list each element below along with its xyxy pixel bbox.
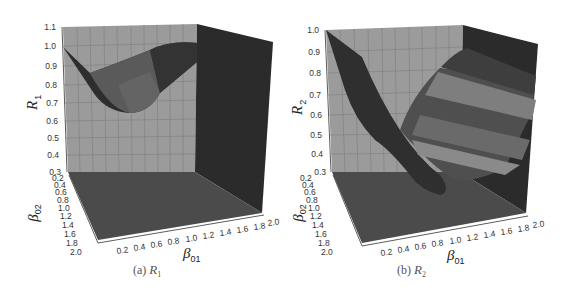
svg-text:2.0: 2.0 — [267, 216, 280, 228]
surface-plot-r2: 1.0 0.9 0.8 0.7 0.6 0.5 0.4 0.3 R2 0.2 0… — [284, 0, 568, 293]
svg-text:0.9: 0.9 — [45, 61, 57, 71]
svg-text:0.6: 0.6 — [46, 116, 58, 126]
svg-text:0.4: 0.4 — [311, 149, 323, 159]
svg-text:0.7: 0.7 — [309, 90, 321, 100]
svg-text:0.4: 0.4 — [397, 243, 410, 255]
svg-text:0.8: 0.8 — [45, 80, 57, 90]
caption-b: (b) R2 — [397, 262, 426, 279]
z-axis-label: R2 — [289, 100, 308, 116]
svg-text:1.0: 1.0 — [307, 25, 319, 35]
svg-text:1.4: 1.4 — [483, 228, 496, 240]
svg-text:0.2: 0.2 — [116, 244, 129, 256]
svg-text:1.0: 1.0 — [449, 234, 462, 246]
svg-text:0.8: 0.8 — [431, 237, 444, 249]
svg-text:0.4: 0.4 — [133, 241, 146, 253]
svg-text:2.0: 2.0 — [532, 218, 545, 230]
svg-text:0.8: 0.8 — [167, 235, 180, 247]
svg-text:2.0: 2.0 — [321, 247, 333, 257]
svg-text:0.6: 0.6 — [414, 240, 427, 252]
svg-text:0.9: 0.9 — [308, 47, 320, 57]
svg-text:0.4: 0.4 — [47, 150, 59, 160]
x-axis-label: β01 — [182, 245, 201, 264]
svg-text:0.5: 0.5 — [310, 130, 322, 140]
surface-plot-r1: 1.1 1.0 0.9 0.8 0.7 0.6 0.5 0.4 0.3 R1 0… — [0, 0, 284, 293]
svg-text:0.8: 0.8 — [309, 68, 321, 78]
svg-text:1.0: 1.0 — [44, 41, 56, 51]
svg-text:0.6: 0.6 — [150, 238, 163, 250]
svg-text:1.6: 1.6 — [500, 225, 513, 237]
x-axis-label: β01 — [446, 247, 465, 266]
svg-text:1.4: 1.4 — [219, 226, 232, 238]
caption-a: (a) R1 — [133, 262, 161, 279]
z-axis-label: R1 — [24, 95, 43, 111]
y-axis-label: β02 — [290, 204, 308, 223]
panel-a: 1.1 1.0 0.9 0.8 0.7 0.6 0.5 0.4 0.3 R1 0… — [0, 0, 284, 293]
svg-text:1.8: 1.8 — [253, 220, 266, 232]
svg-text:0.6: 0.6 — [310, 110, 322, 120]
svg-text:1.6: 1.6 — [236, 223, 249, 235]
svg-text:1.2: 1.2 — [466, 231, 479, 243]
svg-text:1.0: 1.0 — [185, 232, 198, 244]
svg-text:0.2: 0.2 — [380, 246, 393, 258]
z-axis-ticks: 1.0 0.9 0.8 0.7 0.6 0.5 0.4 0.3 — [307, 25, 326, 177]
svg-text:0.3: 0.3 — [314, 167, 326, 177]
svg-text:1.8: 1.8 — [517, 222, 530, 234]
svg-text:1.1: 1.1 — [44, 22, 56, 32]
svg-text:0.5: 0.5 — [47, 133, 59, 143]
y-axis-label: β02 — [25, 204, 43, 223]
svg-text:0.7: 0.7 — [46, 98, 58, 108]
svg-text:1.2: 1.2 — [202, 229, 215, 241]
svg-text:2.0: 2.0 — [70, 247, 82, 257]
z-axis-ticks: 1.1 1.0 0.9 0.8 0.7 0.6 0.5 0.4 0.3 — [44, 22, 61, 177]
panel-b: 1.0 0.9 0.8 0.7 0.6 0.5 0.4 0.3 R2 0.2 0… — [284, 0, 568, 293]
